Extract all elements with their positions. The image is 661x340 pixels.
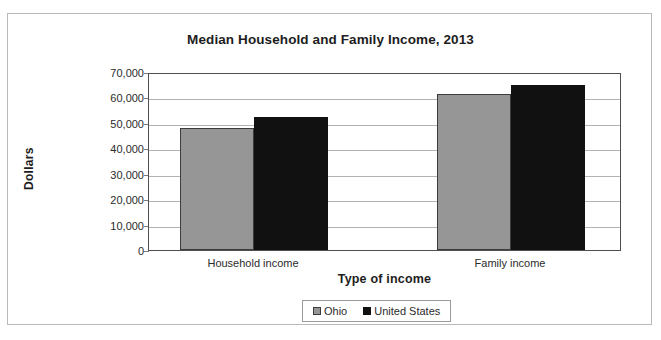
chart-title: Median Household and Family Income, 2013	[8, 32, 653, 47]
plot-area	[148, 73, 621, 251]
x-axis-title: Type of income	[148, 272, 621, 286]
y-axis-tick-mark	[144, 251, 149, 252]
legend-swatch-icon	[313, 307, 321, 315]
bar-united-states-household-income	[254, 117, 328, 251]
x-axis-category-label: Family income	[406, 257, 614, 269]
chart-legend: OhioUnited States	[302, 300, 451, 322]
bar-ohio-family-income	[437, 94, 511, 250]
chart-frame: Median Household and Family Income, 2013…	[7, 13, 652, 325]
chart-figure: Median Household and Family Income, 2013…	[0, 0, 661, 340]
legend-label: Ohio	[324, 305, 347, 317]
legend-swatch-icon	[363, 307, 371, 315]
bar-ohio-household-income	[180, 128, 254, 250]
bar-united-states-family-income	[511, 85, 585, 250]
legend-label: United States	[374, 305, 440, 317]
legend-item-ohio[interactable]: Ohio	[313, 305, 347, 317]
legend-item-united-states[interactable]: United States	[363, 305, 440, 317]
x-axis-category-label: Household income	[149, 257, 357, 269]
y-axis-tick-marks	[8, 73, 153, 251]
